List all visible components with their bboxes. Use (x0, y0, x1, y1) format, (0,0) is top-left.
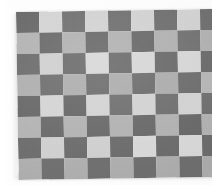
checker-cell (110, 136, 133, 157)
checker-cell (18, 159, 41, 180)
checker-cell (201, 51, 212, 72)
checker-cell (201, 72, 212, 93)
checker-cell (85, 32, 108, 53)
checker-cell (179, 156, 202, 177)
checker-cell (17, 96, 40, 117)
checker-cell (16, 12, 39, 33)
checker-cell (62, 11, 85, 32)
checker-cell (87, 116, 110, 137)
checker-cell (177, 9, 200, 30)
checker-cell (200, 30, 212, 51)
checker-cell (63, 74, 86, 95)
checker-cell (202, 114, 212, 135)
checker-cell (156, 114, 179, 135)
checker-cell (41, 137, 64, 158)
checker-cell (109, 94, 132, 115)
checker-cell (133, 136, 156, 157)
checker-cell (178, 72, 201, 93)
checker-cell (178, 51, 201, 72)
checker-cell (87, 158, 110, 179)
checker-cell (85, 11, 108, 32)
checker-cell (201, 93, 212, 114)
checkerboard (16, 9, 212, 180)
checker-cell (154, 30, 177, 51)
checker-cell (179, 135, 202, 156)
checker-cell (200, 9, 212, 30)
checker-cell (39, 32, 62, 53)
checker-cell (202, 135, 212, 156)
checker-cell (86, 74, 109, 95)
checker-cell (39, 11, 62, 32)
checker-cell (110, 157, 133, 178)
checker-cell (40, 74, 63, 95)
checker-cell (63, 53, 86, 74)
checker-cell (202, 156, 212, 177)
checker-cell (133, 115, 156, 136)
checker-cell (87, 137, 110, 158)
checker-cell (156, 135, 179, 156)
checker-cell (86, 53, 109, 74)
checker-cell (64, 158, 87, 179)
checker-cell (131, 10, 154, 31)
checker-cell (40, 95, 63, 116)
checker-cell (64, 116, 87, 137)
checker-cell (155, 93, 178, 114)
checker-cell (154, 9, 177, 30)
checker-cell (179, 114, 202, 135)
checker-cell (18, 138, 41, 159)
checker-cell (177, 30, 200, 51)
checker-cell (131, 31, 154, 52)
checker-cell (63, 95, 86, 116)
checker-cell (64, 137, 87, 158)
checker-cell (132, 94, 155, 115)
checker-cell (132, 73, 155, 94)
checker-cell (62, 32, 85, 53)
checker-cell (40, 53, 63, 74)
checker-cell (41, 158, 64, 179)
checker-cell (17, 54, 40, 75)
checker-cell (41, 116, 64, 137)
checker-cell (156, 156, 179, 177)
checker-cell (108, 10, 131, 31)
checker-cell (132, 52, 155, 73)
checker-cell (17, 75, 40, 96)
photo-canvas: Close-up photograph of a grey and white … (0, 0, 212, 185)
checker-cell (155, 51, 178, 72)
checker-cell (109, 52, 132, 73)
checker-cell (155, 72, 178, 93)
checker-cell (178, 93, 201, 114)
checker-cell (110, 115, 133, 136)
checker-cell (133, 157, 156, 178)
checker-cell (86, 95, 109, 116)
checker-cell (18, 117, 41, 138)
checkerboard-grid (16, 9, 212, 180)
checker-cell (108, 31, 131, 52)
checker-cell (109, 73, 132, 94)
checker-cell (16, 33, 39, 54)
